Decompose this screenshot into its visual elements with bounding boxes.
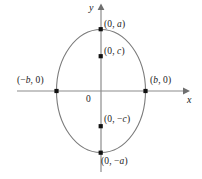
point-upper-focus — [99, 54, 103, 58]
origin-label: 0 — [86, 95, 91, 105]
point-right-vertex — [143, 89, 147, 93]
label-top-vertex: (0, a) — [104, 20, 125, 30]
label-bottom-vertex: (0, −a) — [101, 157, 128, 167]
label-left-vertex: (−b, 0) — [17, 76, 44, 86]
label-right-vertex: (b, 0) — [150, 76, 171, 86]
y-axis-label: y — [89, 3, 93, 13]
point-bottom-vertex — [99, 151, 103, 155]
point-left-vertex — [54, 89, 58, 93]
label-upper-focus: (0, c) — [104, 47, 125, 57]
ellipse-figure: y x 0 (0, a) (0, c) (0, −c) (0, −a) (−b,… — [0, 0, 202, 179]
y-axis-arrowhead — [98, 4, 105, 11]
x-axis-label: x — [187, 95, 191, 105]
point-lower-focus — [99, 124, 103, 128]
label-lower-focus: (0, −c) — [104, 115, 130, 125]
ellipse-diagram-canvas — [0, 0, 202, 179]
point-top-vertex — [99, 27, 103, 31]
